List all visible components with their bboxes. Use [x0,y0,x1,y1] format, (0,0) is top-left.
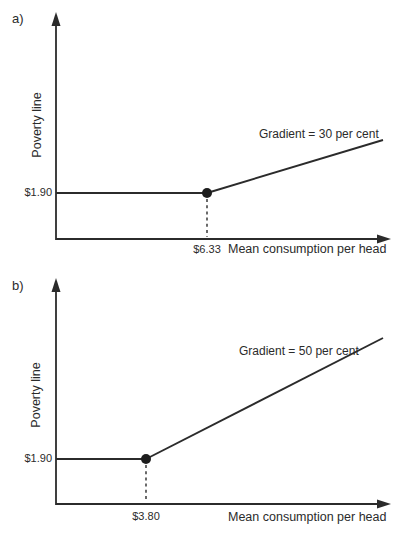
panel-b-plot [0,269,400,538]
panel-a-tag: a) [12,12,24,27]
panel-b: b) Poverty line $1.90 $3.80 Mean consump… [0,269,400,538]
gradient-annotation: Gradient = 50 per cent [239,345,359,359]
sloped-poverty-line-segment [207,140,383,193]
x-axis-title: Mean consumption per head [228,510,386,524]
y-axis-arrowhead [52,278,61,292]
y-axis-arrowhead [52,12,61,26]
x-tick-3-80: $3.80 [106,510,186,523]
x-axis-arrowhead [377,500,391,509]
y-axis-title: Poverty line [29,362,43,427]
y-tick-1-90: $1.90 [18,186,52,199]
panel-a: a) Poverty line $1.90 $6.33 Mean consump… [0,0,400,269]
panel-b-tag: b) [12,279,24,294]
x-axis-title: Mean consumption per head [228,242,386,256]
kink-point-marker [202,188,212,198]
poverty-line-figure: a) Poverty line $1.90 $6.33 Mean consump… [0,0,400,538]
y-tick-1-90: $1.90 [18,452,52,465]
gradient-annotation: Gradient = 30 per cent [259,128,379,142]
kink-point-marker [141,454,151,464]
y-axis-title: Poverty line [30,92,44,157]
